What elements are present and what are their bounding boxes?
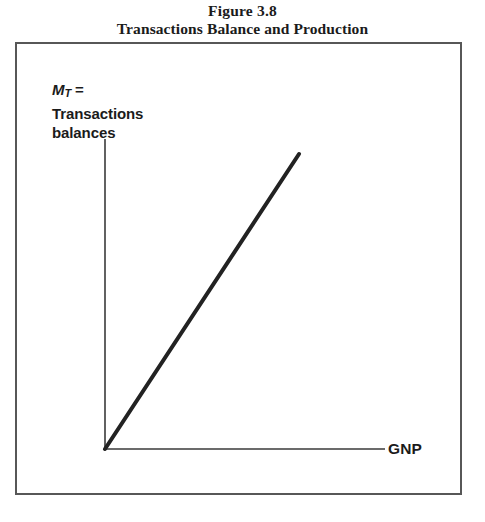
figure-title-line1: Figure 3.8 — [0, 2, 485, 19]
figure-frame-border: MT = Transactions balances GNP — [15, 42, 462, 495]
y-axis-label-line2: Transactions — [52, 104, 212, 124]
x-axis-label: GNP — [388, 440, 422, 458]
transactions-balance-line — [105, 154, 299, 449]
y-axis-label-line1: MT = — [52, 80, 212, 104]
y-axis-label-line3: balances — [52, 123, 212, 143]
y-axis-equals: = — [71, 81, 84, 98]
figure-title-line2: Transactions Balance and Production — [0, 19, 485, 38]
y-axis-symbol: M — [52, 81, 64, 98]
plot-area: MT = Transactions balances GNP — [17, 44, 464, 497]
y-axis-label: MT = Transactions balances — [52, 80, 212, 143]
figure-title: Figure 3.8 Transactions Balance and Prod… — [0, 2, 485, 38]
